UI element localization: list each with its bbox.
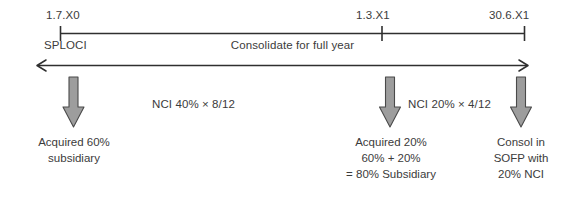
- block-arrow-consol-sofp: [511, 77, 532, 127]
- caption-line: SOFP with: [462, 150, 580, 166]
- block-arrow-shape: [63, 77, 84, 127]
- nci-annotation-second-period: NCI 20% × 4/12: [408, 97, 491, 112]
- caption-line: Consol in: [462, 134, 580, 150]
- full-year-span-arrow: [37, 60, 528, 71]
- caption-line: = 80% Subsidiary: [320, 166, 462, 182]
- caption-acquire-20: Acquired 20% 60% + 20% = 80% Subsidiary: [320, 134, 462, 182]
- caption-line: 20% NCI: [462, 166, 580, 182]
- consolidate-span-label: Consolidate for full year: [60, 38, 525, 53]
- caption-line: Acquired 60%: [0, 134, 148, 150]
- caption-acquire-60: Acquired 60% subsidiary: [0, 134, 148, 166]
- nci-annotation-first-period: NCI 40% × 8/12: [152, 97, 235, 112]
- block-arrow-shape: [380, 77, 401, 127]
- caption-line: subsidiary: [0, 150, 148, 166]
- caption-line: 60% + 20%: [320, 150, 462, 166]
- caption-consol-sofp: Consol in SOFP with 20% NCI: [462, 134, 580, 182]
- block-arrow-acquire-60: [63, 77, 84, 127]
- block-arrow-shape: [511, 77, 532, 127]
- block-arrow-acquire-20: [380, 77, 401, 127]
- caption-line: Acquired 20%: [320, 134, 462, 150]
- diagram-canvas: 1.7.X0 1.3.X1 30.6.X1 SPLOCI Con: [0, 0, 582, 201]
